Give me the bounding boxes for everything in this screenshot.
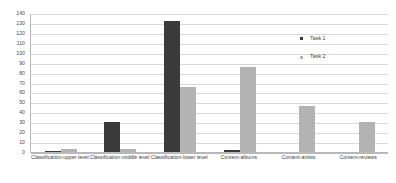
legend-label: Task 1: [310, 36, 326, 41]
bars-layer: [31, 14, 388, 152]
x-tick-label: Content-reviews: [339, 155, 376, 161]
bar-chart: 0102030405060708090100110120130140 Class…: [0, 0, 396, 183]
x-tick-label: Classification-upper level: [31, 155, 89, 161]
bar-group: [91, 14, 151, 152]
y-tick-label: 90: [19, 61, 25, 66]
y-tick-label: 110: [17, 41, 25, 46]
legend-swatch-icon: [300, 56, 303, 59]
y-tick-label: 130: [16, 21, 25, 26]
y-tick-label: 100: [16, 51, 25, 56]
chart-legend: Task 1Task 2: [300, 36, 326, 60]
y-tick-label: 20: [19, 131, 25, 136]
bar: [104, 122, 120, 152]
y-tick-label: 40: [19, 111, 25, 116]
bar: [180, 87, 196, 152]
bar-group: [210, 14, 270, 152]
bar-group: [31, 14, 91, 152]
legend-entry[interactable]: Task 2: [300, 54, 326, 59]
y-tick-label: 0: [22, 150, 25, 155]
legend-entry[interactable]: Task 1: [300, 36, 326, 41]
bar: [120, 149, 136, 152]
x-tick-label: Classification-middle level: [90, 155, 150, 161]
bar: [299, 106, 315, 152]
plot-area: [30, 14, 388, 153]
x-tick-label: Content-albums: [221, 155, 258, 161]
bar: [164, 21, 180, 152]
x-tick-label: Classification-lower level: [151, 155, 208, 161]
x-tick-label: Content-artists: [282, 155, 316, 161]
bar: [61, 149, 77, 152]
bar: [240, 67, 256, 152]
y-tick-label: 60: [19, 91, 25, 96]
y-tick-label: 30: [19, 121, 25, 126]
legend-label: Task 2: [310, 54, 326, 59]
bar: [359, 122, 375, 152]
y-tick-label: 50: [19, 101, 25, 106]
bar: [224, 150, 240, 152]
x-axis: Classification-upper levelClassification…: [30, 155, 388, 171]
y-tick-label: 70: [19, 81, 25, 86]
y-tick-label: 140: [16, 11, 25, 16]
bar: [45, 151, 61, 152]
y-axis: 0102030405060708090100110120130140: [0, 14, 28, 153]
y-tick-label: 120: [16, 31, 25, 36]
y-tick-label: 10: [19, 140, 25, 145]
bar-group: [329, 14, 389, 152]
legend-swatch-icon: [300, 37, 303, 40]
bar-group: [150, 14, 210, 152]
y-tick-label: 80: [19, 71, 25, 76]
